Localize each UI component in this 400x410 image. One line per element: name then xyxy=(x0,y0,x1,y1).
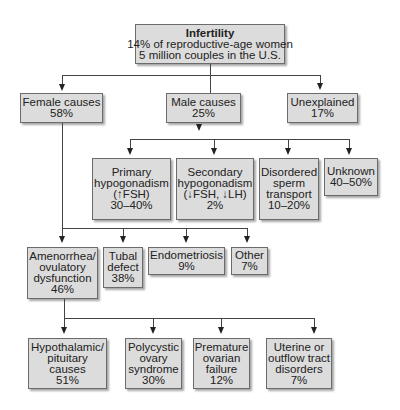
arrow-down-icon xyxy=(196,124,202,131)
percent: 7% xyxy=(291,375,308,386)
label: syndrome xyxy=(128,364,179,375)
arrow-down-icon xyxy=(59,84,65,91)
primary-hypogonadism-box: Primary hypogonadism (↑FSH) 30–40% xyxy=(92,158,171,220)
disordered-sperm-transport-box: Disordered sperm transport 10–20% xyxy=(259,158,319,220)
uterine-outflow-tract-box: Uterine or outflow tract disorders 7% xyxy=(266,338,332,389)
arrow-down-icon xyxy=(59,236,65,243)
arrow-down-icon xyxy=(311,327,317,334)
connector xyxy=(62,123,63,228)
root-title: Infertility xyxy=(186,28,235,39)
label: failure xyxy=(206,364,237,375)
label: outflow tract xyxy=(268,353,330,364)
connector xyxy=(62,228,248,229)
hypothalamic-pituitary-box: Hypothalamic/ pituitary causes 51% xyxy=(28,338,107,389)
percent: 51% xyxy=(56,375,79,386)
other-box: Other 7% xyxy=(231,247,268,275)
percent: 10–20% xyxy=(268,200,310,211)
connector xyxy=(130,139,350,140)
premature-ovarian-failure-box: Premature ovarian failure 12% xyxy=(193,338,250,389)
label: ovarian xyxy=(203,353,241,364)
percent: 25% xyxy=(192,108,215,119)
percent: 2% xyxy=(207,200,224,211)
percent: 12% xyxy=(210,375,233,386)
root-line2: 5 million couples in the U.S. xyxy=(139,50,281,61)
unexplained-box: Unexplained 17% xyxy=(287,93,358,123)
arrow-down-icon xyxy=(317,83,323,90)
connector xyxy=(210,75,211,93)
arrow-down-icon xyxy=(218,327,224,334)
percent: 46% xyxy=(51,284,74,295)
percent: 7% xyxy=(241,261,258,272)
arrow-down-icon xyxy=(61,327,67,334)
connector xyxy=(64,318,315,319)
arrow-down-icon xyxy=(346,148,352,155)
unknown-box: Unknown 40–50% xyxy=(324,158,378,196)
arrow-down-icon xyxy=(183,236,189,243)
connector xyxy=(210,64,211,75)
arrow-down-icon xyxy=(127,148,133,155)
percent: 38% xyxy=(111,273,134,284)
label: Uterine or xyxy=(274,342,325,353)
male-causes-box: Male causes 25% xyxy=(166,93,241,123)
percent: 58% xyxy=(50,108,73,119)
label: Hypothalamic/ xyxy=(31,342,104,353)
label: ovary xyxy=(139,353,167,364)
female-causes-box: Female causes 58% xyxy=(20,93,103,123)
label: pituitary xyxy=(47,353,87,364)
arrow-down-icon xyxy=(244,236,250,243)
root-line1: 14% of reproductive-age women xyxy=(127,39,293,50)
connector xyxy=(64,299,65,318)
amenorrhea-box: Amenorrhea/ ovulatory dysfunction 46% xyxy=(27,247,98,299)
label: causes xyxy=(49,364,85,375)
arrow-down-icon xyxy=(120,236,126,243)
endometriosis-box: Endometriosis 9% xyxy=(148,247,225,275)
percent: 40–50% xyxy=(330,177,372,188)
arrow-down-icon xyxy=(150,327,156,334)
label: Polycystic xyxy=(128,342,179,353)
tubal-defect-box: Tubal defect 38% xyxy=(103,247,143,288)
secondary-hypogonadism-box: Secondary hypogonadism (↓FSH, ↓LH) 2% xyxy=(176,158,254,220)
percent: 30% xyxy=(142,375,165,386)
percent: 30–40% xyxy=(110,200,152,211)
label: Premature xyxy=(195,342,249,353)
percent: 17% xyxy=(311,108,334,119)
root-box-infertility: Infertility 14% of reproductive-age wome… xyxy=(135,24,285,64)
arrow-down-icon xyxy=(285,148,291,155)
arrow-down-icon xyxy=(211,148,217,155)
label: disorders xyxy=(275,364,322,375)
connector xyxy=(62,75,321,76)
percent: 9% xyxy=(178,261,195,272)
polycystic-ovary-syndrome-box: Polycystic ovary syndrome 30% xyxy=(125,338,182,389)
